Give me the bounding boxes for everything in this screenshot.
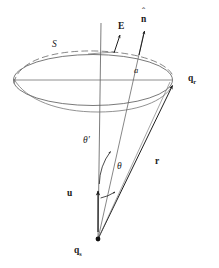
n-hat-glyph: n bbox=[141, 15, 146, 25]
velocity-label-u: u bbox=[67, 189, 72, 199]
qr-subscript: r bbox=[193, 78, 196, 85]
electric-field-label-E: E bbox=[118, 22, 124, 32]
angle-label-theta: θ bbox=[117, 162, 122, 172]
normal-vector-arrow bbox=[139, 31, 145, 55]
diagram-canvas bbox=[0, 0, 219, 268]
cap-back-rim-dashed bbox=[14, 51, 172, 83]
field-label-leader bbox=[88, 52, 114, 54]
cap-front-arc bbox=[14, 79, 172, 112]
distance-label-r: r bbox=[155, 157, 159, 167]
source-charge-dot bbox=[96, 237, 101, 242]
electric-field-vector bbox=[114, 35, 120, 53]
unit-normal-label-n-hat: n bbox=[141, 15, 146, 25]
angle-arc-theta-prime bbox=[99, 152, 110, 185]
source-charge-label-qs: qs bbox=[74, 246, 82, 257]
physics-diagram-figure: S E n a qr qs θ′ θ u r bbox=[0, 0, 219, 268]
receiver-charge-label-qr: qr bbox=[188, 74, 196, 85]
qs-subscript: s bbox=[79, 250, 81, 257]
angle-label-theta-prime: θ′ bbox=[83, 136, 90, 146]
surface-label-S: S bbox=[52, 40, 57, 50]
normal-vector-line bbox=[98, 32, 144, 239]
radius-label-a: a bbox=[134, 66, 138, 75]
